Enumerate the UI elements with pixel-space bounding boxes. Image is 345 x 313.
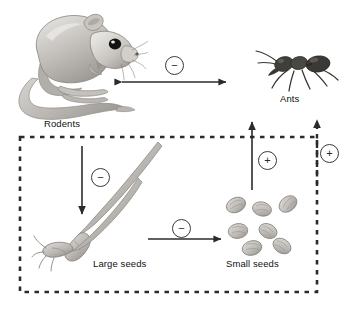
sign-rodents-ants: − <box>165 56 184 75</box>
sign-rodents-large-seeds: − <box>91 168 110 187</box>
sign-large-to-small-seeds: − <box>172 219 191 238</box>
sign-small-seeds-ants: + <box>258 151 277 170</box>
sign-rodents-large-seeds-glyph: − <box>97 172 103 183</box>
sign-seedbox-ants-glyph: + <box>326 148 332 159</box>
sign-large-to-small-seeds-glyph: − <box>178 223 184 234</box>
diagram-canvas: Rodents Ants <box>0 0 345 313</box>
arrow-layer <box>0 0 345 313</box>
sign-small-seeds-ants-glyph: + <box>264 155 270 166</box>
sign-rodents-ants-glyph: − <box>171 60 177 71</box>
sign-seedbox-ants: + <box>320 144 339 163</box>
